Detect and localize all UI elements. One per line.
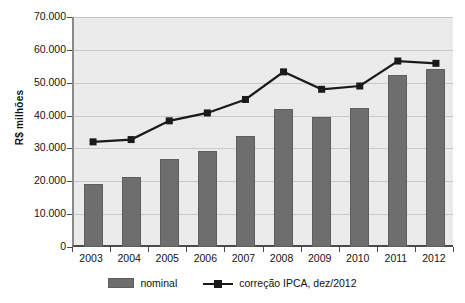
x-axis-tick-mark [72, 247, 73, 252]
x-axis-tick-label: 2012 [409, 252, 459, 264]
y-axis-tick-label: 60.000 [0, 43, 66, 55]
y-axis-tick-label: 40.000 [0, 109, 66, 121]
bar [350, 108, 369, 247]
legend-line-marker-icon [203, 278, 233, 289]
line-marker [432, 60, 439, 67]
bar [84, 184, 103, 247]
bar [312, 117, 331, 247]
y-axis-tick-label: 30.000 [0, 141, 66, 153]
line-marker [318, 86, 325, 93]
bar [426, 69, 445, 247]
bar [198, 151, 217, 247]
y-axis-tick-label: 10.000 [0, 207, 66, 219]
line-path [93, 61, 436, 142]
line-marker [280, 68, 287, 75]
bar [236, 136, 255, 247]
bar [160, 159, 179, 247]
legend-item-correcao-ipca: correção IPCA, dez/2012 [203, 277, 356, 289]
line-marker [242, 96, 249, 103]
line-marker [128, 136, 135, 143]
x-axis-tick-mark [453, 247, 454, 252]
gridline [74, 50, 453, 51]
line-marker [166, 117, 173, 124]
y-axis-tick-label: 70.000 [0, 10, 66, 22]
line-marker-group [90, 58, 440, 146]
y-axis-tick-label: 0 [0, 240, 66, 252]
legend-bar-swatch-icon [108, 278, 134, 288]
gridline [74, 17, 453, 18]
chart-legend: nominal correção IPCA, dez/2012 [0, 277, 465, 289]
bar [122, 177, 141, 247]
legend-item-nominal: nominal [108, 277, 177, 289]
y-axis-tick-label: 50.000 [0, 76, 66, 88]
y-axis-tick-label: 20.000 [0, 174, 66, 186]
legend-label-correcao-ipca: correção IPCA, dez/2012 [239, 277, 356, 289]
line-marker [394, 58, 401, 65]
line-marker [90, 138, 97, 145]
chart-container: R$ milhões 010.00020.00030.00040.00050.0… [0, 0, 465, 303]
plot-area [72, 17, 453, 247]
bar [274, 109, 293, 247]
legend-label-nominal: nominal [140, 277, 177, 289]
bar [388, 75, 407, 248]
